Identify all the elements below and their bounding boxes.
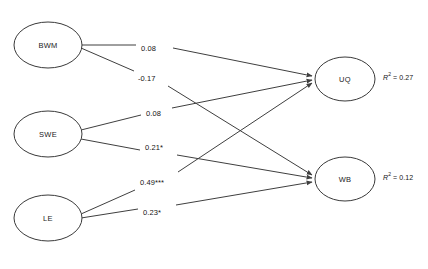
edge-label-le-uq: 0.49*** xyxy=(140,178,164,187)
node-label-le: LE xyxy=(43,214,53,223)
r-squared-label-wb: R2 = 0.12 xyxy=(383,174,413,181)
edge-line-bwm-wb-seg1 xyxy=(81,48,134,71)
edge-lines xyxy=(81,45,312,218)
edge-label-bwm-wb: -0.17 xyxy=(138,74,156,83)
edge-line-le-uq-seg2 xyxy=(178,83,312,172)
edge-line-swe-wb-seg1 xyxy=(81,139,140,150)
r-squared-value-wb: 0.12 xyxy=(399,174,413,181)
edge-label-bwm-uq: 0.08 xyxy=(141,44,156,53)
node-label-uq: UQ xyxy=(339,75,351,84)
edge-line-swe-uq-seg2 xyxy=(172,80,312,108)
edge-line-le-wb-seg2 xyxy=(176,182,312,205)
r-squared-label-uq: R2 = 0.27 xyxy=(383,74,413,81)
edge-label-le-wb: 0.23* xyxy=(143,208,161,217)
node-label-bwm: BWM xyxy=(38,41,57,50)
edge-line-swe-uq-seg1 xyxy=(81,115,141,130)
path-diagram-canvas xyxy=(0,0,428,269)
node-shapes xyxy=(14,22,375,241)
path-diagram: BWM SWE LE UQ WB 0.08 -0.17 0.08 0.21* 0… xyxy=(0,0,428,269)
node-label-wb: WB xyxy=(339,175,352,184)
edge-label-swe-wb: 0.21* xyxy=(145,143,163,152)
edge-line-bwm-uq-seg2 xyxy=(173,48,312,76)
edge-label-swe-uq: 0.08 xyxy=(146,109,161,118)
node-label-swe: SWE xyxy=(39,130,57,139)
edge-line-swe-wb-seg2 xyxy=(177,155,312,178)
r-squared-value-uq: 0.27 xyxy=(399,74,413,81)
